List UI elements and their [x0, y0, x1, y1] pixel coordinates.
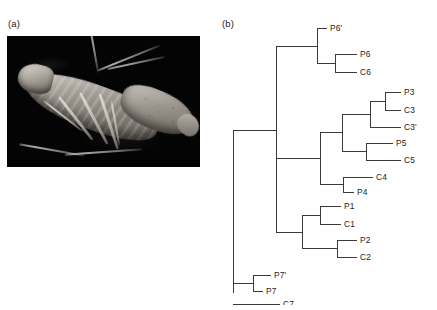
dendrogram-panel: P6' P6 C6 P3 C3 C3' P5 C5 C4 P4 P1 C1 P2…: [218, 10, 437, 305]
tip-label-P5: P5: [396, 138, 407, 148]
tip-label-C5: C5: [404, 155, 415, 165]
tip-label-P2: P2: [360, 235, 371, 245]
tip-label-C7: C7: [283, 299, 294, 305]
tip-label-P4: P4: [357, 187, 368, 197]
tip-label-C3prime: C3': [404, 122, 417, 132]
panel-a-label: (a): [8, 18, 20, 29]
tip-label-P7prime: P7': [274, 270, 287, 280]
tip-label-C1: C1: [344, 219, 355, 229]
tip-label-C2: C2: [360, 252, 371, 262]
specimen-photograph: [7, 36, 200, 167]
tip-label-C6: C6: [360, 67, 371, 77]
tip-label-P7: P7: [266, 286, 277, 296]
tip-label-P1: P1: [344, 201, 355, 211]
tip-label-P6prime: P6': [330, 23, 343, 33]
dendrogram-svg: P6' P6 C6 P3 C3 C3' P5 C5 C4 P4 P1 C1 P2…: [218, 10, 437, 305]
tip-label-C4: C4: [376, 172, 387, 182]
dendrogram-branches: [233, 28, 401, 304]
tip-label-C3: C3: [404, 105, 415, 115]
tip-label-P6: P6: [360, 49, 371, 59]
figure-root: (a) (b): [0, 0, 437, 310]
dendrogram-tip-labels: P6' P6 C6 P3 C3 C3' P5 C5 C4 P4 P1 C1 P2…: [266, 23, 417, 305]
tip-label-P3: P3: [404, 87, 415, 97]
